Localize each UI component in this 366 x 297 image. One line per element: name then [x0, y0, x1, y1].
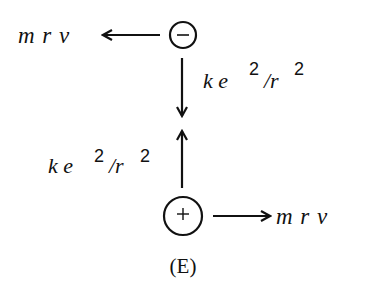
force-label-divisor: /r	[262, 68, 279, 93]
force-label-exponent: 2	[140, 146, 150, 166]
force-label-base: k e	[203, 68, 228, 93]
top-force-label: k e 2 /r 2	[203, 59, 304, 93]
diagram-caption: (E)	[170, 254, 197, 278]
force-label-exponent: 2	[249, 59, 259, 79]
top-momentum-label: m r v	[18, 23, 70, 48]
bottom-force-label: k e 2 /r 2	[48, 146, 150, 178]
force-label-exponent: 2	[294, 59, 304, 79]
force-label-divisor: /r	[107, 153, 124, 178]
positive-charge	[164, 197, 202, 235]
bottom-momentum-label: m r v	[276, 204, 328, 229]
force-label-exponent: 2	[94, 146, 104, 166]
force-label-base: k e	[48, 153, 73, 178]
negative-charge	[170, 22, 196, 48]
force-diagram: m r v k e 2 /r 2 k e 2 /r 2 m r v (E)	[0, 0, 366, 297]
